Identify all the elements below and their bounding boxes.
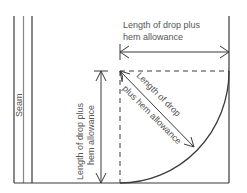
horizontal-dimension-arrow (120, 44, 229, 60)
horizontal-label-line2: hem allowance (123, 32, 183, 42)
vertical-label-line2: hem allowance (86, 105, 96, 165)
diagonal-dimension-arrow (120, 71, 194, 147)
curtain-drop-diagram: Seam Length of drop plus hem allowance L… (0, 0, 247, 193)
horizontal-label-line1: Length of drop plus (123, 20, 201, 30)
vertical-label-line1: Length of drop plus (75, 102, 85, 180)
diagram-canvas: Seam Length of drop plus hem allowance L… (0, 0, 247, 193)
vertical-dimension-arrow (94, 71, 108, 183)
seam-label: Seam (14, 93, 24, 117)
